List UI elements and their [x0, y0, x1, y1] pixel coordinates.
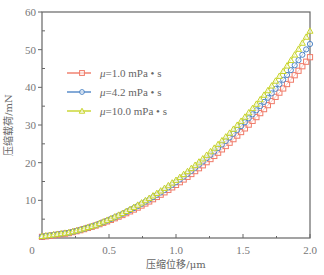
- x-tick-label: 1.0: [169, 244, 183, 256]
- y-tick-label: 20: [25, 157, 37, 169]
- plot-border: [42, 12, 310, 238]
- x-tick-label: 0.5: [102, 244, 116, 256]
- series-triangle: [39, 28, 313, 239]
- legend-item: μ=1.0 mPa • s: [67, 67, 161, 79]
- legend-item: μ=10.0 mPa • s: [67, 105, 167, 117]
- legend: μ=1.0 mPa • sμ=4.2 mPa • sμ=10.0 mPa • s: [67, 67, 167, 117]
- y-tick-label: 50: [25, 44, 37, 56]
- x-tick-label: 2.0: [303, 244, 317, 256]
- y-tick-label: 10: [25, 194, 37, 206]
- x-axis-label: 压缩位移/μm: [146, 258, 206, 270]
- legend-label: μ=10.0 mPa • s: [99, 105, 167, 117]
- chart: 10203040506000.51.01.52.0 μ=1.0 mPa • sμ…: [0, 0, 324, 275]
- plot-frame: [42, 12, 310, 238]
- axis-ticks: 10203040506000.51.01.52.0: [25, 6, 317, 256]
- y-axis-label: 压缩载荷/mN: [2, 94, 14, 156]
- legend-item: μ=4.2 mPa • s: [67, 86, 161, 98]
- y-tick-label: 40: [25, 81, 37, 93]
- series-layer: [39, 28, 313, 240]
- y-tick-label: 60: [25, 6, 37, 18]
- x-tick-label: 1.5: [236, 244, 250, 256]
- x-tick-label: 0: [29, 244, 35, 256]
- legend-label: μ=1.0 mPa • s: [99, 67, 161, 79]
- y-tick-label: 30: [25, 119, 37, 131]
- legend-label: μ=4.2 mPa • s: [99, 86, 161, 98]
